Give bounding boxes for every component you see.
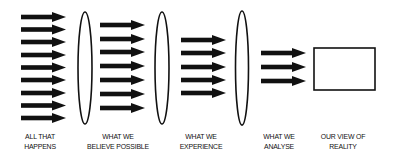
label-line-1: OUR VIEW OF xyxy=(297,132,389,142)
label-believe-possible: WHAT WE BELIEVE POSSIBLE xyxy=(72,132,164,152)
arrow-icon xyxy=(21,88,66,98)
arrow-icon xyxy=(100,103,145,113)
arrow-icon xyxy=(21,25,66,35)
arrow-group-all-that-happens xyxy=(21,12,66,123)
arrow-icon xyxy=(181,48,226,58)
arrow-icon xyxy=(100,75,145,85)
label-line-2: BELIEVE POSSIBLE xyxy=(72,142,164,152)
arrow-icon xyxy=(181,62,226,72)
arrow-icon xyxy=(21,63,66,73)
arrow-icon xyxy=(100,61,145,71)
arrow-icon xyxy=(261,48,306,58)
arrow-group-believe-possible xyxy=(100,20,145,113)
arrow-icon xyxy=(181,88,226,98)
arrow-icon xyxy=(21,12,66,22)
arrow-icon xyxy=(181,35,226,45)
arrow-group-analyse xyxy=(261,48,306,86)
arrow-icon xyxy=(100,20,145,30)
lens-2-ellipse xyxy=(155,12,169,124)
arrow-icon xyxy=(100,34,145,44)
arrow-icon xyxy=(181,75,226,85)
label-view-of-reality: OUR VIEW OF REALITY xyxy=(297,132,389,152)
arrow-group-experience xyxy=(181,35,226,98)
arrow-icon xyxy=(21,75,66,85)
label-line-1: WHAT WE xyxy=(72,132,164,142)
lens-1-ellipse xyxy=(78,12,92,124)
arrow-icon xyxy=(100,89,145,99)
label-line-2: REALITY xyxy=(297,142,389,152)
lens-3-ellipse xyxy=(236,11,249,125)
arrow-icon xyxy=(21,101,66,111)
arrow-icon xyxy=(21,113,66,123)
arrow-icon xyxy=(21,50,66,60)
arrow-icon xyxy=(100,47,145,57)
arrow-icon xyxy=(261,62,306,72)
arrow-icon xyxy=(21,37,66,47)
reality-box xyxy=(314,48,375,90)
arrow-icon xyxy=(261,76,306,86)
